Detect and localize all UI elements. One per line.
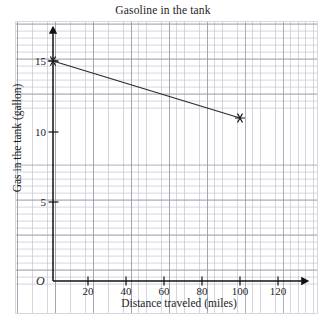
- chart-figure: Gasoline in the tank: [0, 0, 326, 333]
- x-axis-title: Distance traveled (miles): [53, 296, 305, 310]
- origin-label: O: [36, 274, 45, 289]
- data-line-segment: [53, 61, 240, 118]
- y-axis-title-container: Gas in the tank (gallon): [9, 58, 25, 218]
- y-axis-title: Gas in the tank (gallon): [9, 58, 25, 218]
- plot-area: [0, 0, 326, 333]
- data-point-marker-end: [235, 114, 244, 122]
